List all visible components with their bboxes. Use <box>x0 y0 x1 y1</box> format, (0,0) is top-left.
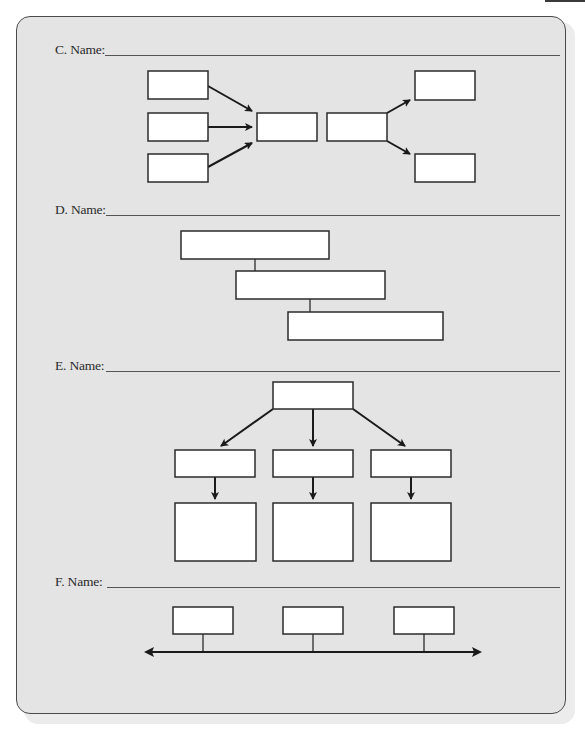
c-arrow-in-1 <box>208 86 252 111</box>
diagrams-canvas <box>0 0 585 744</box>
e-root-box[interactable] <box>273 382 353 409</box>
c-input-box-3[interactable] <box>148 154 208 182</box>
c-output-box-1[interactable] <box>415 71 475 100</box>
diagram-c <box>148 71 475 182</box>
diagram-d <box>181 231 443 340</box>
c-arrow-out-1 <box>387 100 410 113</box>
c-center-right-box[interactable] <box>327 113 387 141</box>
diagram-f <box>144 607 482 657</box>
diagram-e <box>175 382 451 561</box>
f-event-box-1[interactable] <box>173 607 233 634</box>
e-leaf-box-1[interactable] <box>175 503 256 561</box>
c-input-box-2[interactable] <box>148 113 208 141</box>
c-input-box-1[interactable] <box>148 71 208 99</box>
e-mid-box-3[interactable] <box>371 450 451 477</box>
e-arrow-root-1 <box>221 409 273 446</box>
d-step-box-3[interactable] <box>288 312 443 340</box>
c-output-box-2[interactable] <box>415 154 475 182</box>
e-leaf-box-3[interactable] <box>371 503 451 561</box>
e-arrow-root-3 <box>353 409 405 446</box>
e-leaf-box-2[interactable] <box>273 503 353 561</box>
c-center-left-box[interactable] <box>257 113 317 141</box>
e-mid-box-1[interactable] <box>175 450 255 477</box>
e-mid-box-2[interactable] <box>273 450 353 477</box>
f-event-box-3[interactable] <box>394 607 454 634</box>
c-arrow-out-2 <box>387 141 410 154</box>
d-step-box-1[interactable] <box>181 231 329 259</box>
d-step-box-2[interactable] <box>236 271 385 299</box>
f-event-box-2[interactable] <box>283 607 343 634</box>
c-arrow-in-3 <box>208 143 252 167</box>
